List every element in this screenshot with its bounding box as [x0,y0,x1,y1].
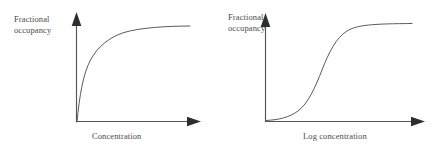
x-axis-label-right: Log concentration [303,131,367,142]
y-axis-label-right: Fractional occupancy [228,12,265,33]
y-axis-label-right-line1: Fractional [228,12,265,23]
x-axis-arrowhead-right [411,117,425,127]
x-axis-label-left: Concentration [92,131,141,142]
x-axis-arrowhead-left [187,117,201,127]
y-axis-label-left: Fractional occupancy [14,14,51,35]
binding-curves-figure: Fractional occupancy Concentration Fract… [0,0,446,152]
sigmoid-dose-response-curve [266,24,412,121]
y-axis-label-right-line2: occupancy [228,23,265,34]
y-axis-arrowhead-left [72,12,82,26]
panel-hyperbolic-curve: Fractional occupancy Concentration [0,0,223,152]
panel-sigmoid-curve: Fractional occupancy Log concentration [223,0,446,152]
hyperbolic-binding-curve [77,26,190,122]
y-axis-label-left-line1: Fractional [14,14,51,25]
y-axis-label-left-line2: occupancy [14,25,51,36]
